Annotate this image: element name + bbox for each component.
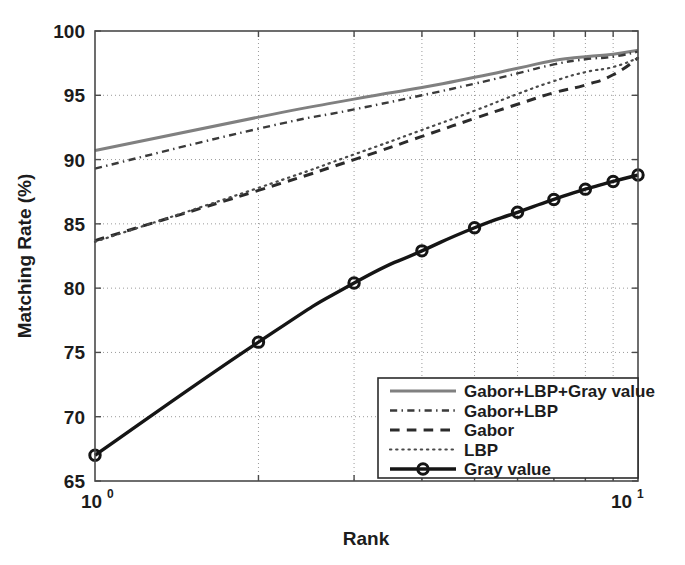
y-axis-tick-label: 65 — [64, 471, 86, 492]
chart-legend[interactable]: Gabor+LBP+Gray valueGabor+LBPGaborLBPGra… — [378, 378, 655, 479]
y-axis-tick-label: 70 — [64, 407, 85, 428]
legend-item-label[interactable]: Gabor+LBP+Gray value — [464, 382, 655, 401]
legend-item-label[interactable]: Gray value — [464, 460, 551, 479]
xtick-label-left-exponent: 0 — [107, 487, 114, 501]
xtick-label-right-base: 10 — [611, 491, 632, 512]
legend-item-label[interactable]: Gabor+LBP — [464, 402, 558, 421]
x-axis-tick-labels: 10 0 10 1 — [81, 487, 644, 512]
y-axis-tick-label: 100 — [53, 21, 85, 42]
chart-figure: 65707580859095100 10 0 10 1 Rank Matchin… — [0, 0, 685, 565]
y-axis-tick-label: 85 — [64, 214, 86, 235]
y-axis-tick-label: 80 — [64, 278, 85, 299]
xtick-label-right-exponent: 1 — [637, 487, 644, 501]
y-axis-tick-labels: 65707580859095100 — [53, 21, 85, 492]
xtick-label-left-base: 10 — [81, 491, 102, 512]
y-axis-tick-label: 95 — [64, 85, 86, 106]
legend-item-label[interactable]: Gabor — [464, 421, 514, 440]
x-axis-title: Rank — [343, 528, 390, 549]
chart-canvas: 65707580859095100 10 0 10 1 Rank Matchin… — [0, 0, 685, 565]
y-axis-title: Matching Rate (%) — [14, 174, 35, 339]
legend-item-label[interactable]: LBP — [464, 441, 498, 460]
y-axis-tick-label: 75 — [64, 342, 86, 363]
y-axis-tick-label: 90 — [64, 150, 85, 171]
